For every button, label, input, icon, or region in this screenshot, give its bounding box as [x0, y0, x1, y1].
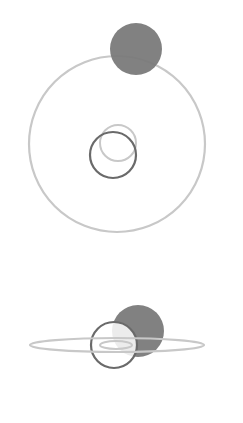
- top-central-dark-circle: [90, 132, 136, 178]
- side-view: [30, 305, 204, 368]
- top-central-light-circle: [100, 125, 136, 161]
- top-orbit-circle: [29, 56, 205, 232]
- top-filled-body: [110, 23, 162, 75]
- top-view: [29, 23, 205, 232]
- diagram-canvas: [0, 0, 243, 423]
- side-central-circle: [91, 322, 137, 368]
